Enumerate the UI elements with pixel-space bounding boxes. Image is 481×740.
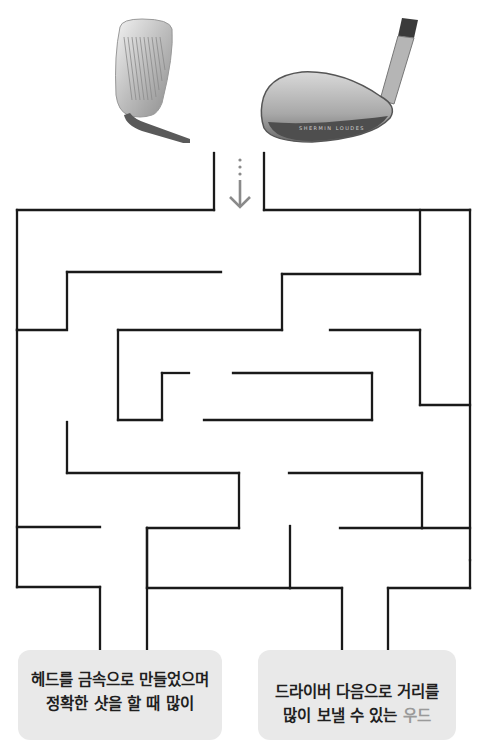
arrow-down-dotted-icon xyxy=(228,156,252,214)
answer-card-left[interactable]: 헤드를 금속으로 만들었으며 정확한 샷을 할 때 많이 xyxy=(18,650,222,740)
card-right-line-2: 많이 보낼 수 있는 우드 xyxy=(258,704,456,728)
card-left-line-1: 헤드를 금속으로 만들었으며 xyxy=(18,668,222,692)
highlight-word: 우드 xyxy=(403,707,431,725)
card-left-line-2: 정확한 샷을 할 때 많이 xyxy=(18,692,222,716)
answer-card-right[interactable]: 드라이버 다음으로 거리를 많이 보낼 수 있는 우드 xyxy=(258,650,456,740)
card-right-line-1: 드라이버 다음으로 거리를 xyxy=(258,680,456,704)
card-right-line-2-text: 많이 보낼 수 있는 xyxy=(283,707,397,725)
